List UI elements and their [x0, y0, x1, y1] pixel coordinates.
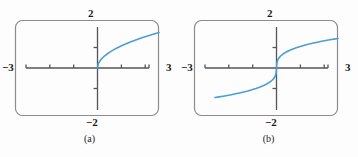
- panel-caption-a: (a): [0, 134, 179, 144]
- x-min-label-b: −3: [181, 62, 193, 73]
- y-min-label-a: −2: [86, 117, 98, 128]
- panel-caption-b: (b): [179, 134, 358, 144]
- graph-panel-a: 2 −2 −3 3 (a): [0, 0, 179, 157]
- graph-panel-b: 2 −2 −3 3 (b): [179, 0, 358, 157]
- y-max-label-b: 2: [267, 8, 273, 19]
- x-min-label-a: −3: [2, 62, 14, 73]
- y-min-label-b: −2: [265, 117, 277, 128]
- curve-sqrt-x: [98, 32, 160, 68]
- y-max-label-a: 2: [88, 8, 94, 19]
- figure-container: 2 −2 −3 3 (a) 2 −2 −3: [0, 0, 358, 157]
- x-max-label-a: 3: [166, 62, 172, 73]
- x-max-label-b: 3: [345, 62, 351, 73]
